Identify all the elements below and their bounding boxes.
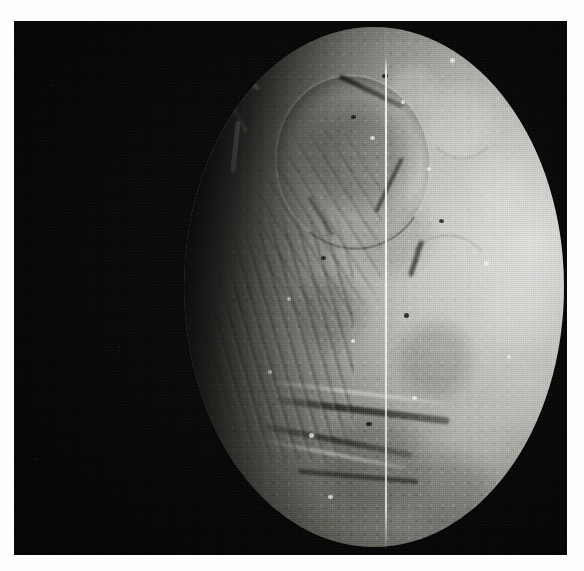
bright-crater-icon — [370, 136, 375, 140]
photographic-plate — [14, 21, 567, 555]
moon-disk — [184, 27, 564, 547]
raster-texture — [184, 27, 564, 547]
rift-valley-2-rim-icon — [268, 440, 406, 471]
bright-crater-icon — [287, 297, 291, 301]
limb-darkening — [184, 27, 564, 547]
grooved-terrain-north-icon — [252, 131, 382, 331]
bright-crater-icon — [412, 396, 417, 400]
bright-crater-icon — [507, 355, 511, 359]
crater-speckle — [184, 27, 564, 547]
bright-crater-icon — [351, 339, 355, 343]
rift-valley-2-icon — [265, 424, 413, 459]
surface-mottling — [184, 27, 564, 547]
terminator-shading — [184, 27, 564, 547]
rift-valley-3-icon — [298, 469, 418, 484]
crater-ring-d-icon — [458, 339, 528, 424]
dark-crater-icon — [382, 74, 388, 78]
bright-crater-icon — [484, 261, 489, 266]
dark-crater-icon — [404, 313, 409, 318]
crater-ring-b-icon — [397, 235, 498, 351]
dark-crater-icon — [366, 422, 372, 426]
image-frame: Grayscale spacecraft image of a heavily … — [0, 0, 584, 571]
rift-valley-1-icon — [275, 396, 450, 424]
bright-crater-icon — [450, 58, 455, 63]
bright-crater-icon — [427, 167, 431, 171]
limb-scarp-lower-icon — [213, 70, 249, 133]
crater-ring-c-icon — [423, 69, 501, 159]
bright-crater-icon — [309, 433, 314, 438]
bright-crater-icon — [401, 100, 405, 104]
degraded-crater-ring-icon — [264, 64, 443, 260]
rift-valley-1-rim-icon — [276, 381, 445, 406]
canyon-west-icon — [307, 196, 335, 237]
moon-disk-container — [184, 27, 564, 547]
canyon-east-icon — [408, 239, 424, 277]
bright-crater-icon — [328, 495, 333, 499]
bright-scarp-icon — [231, 120, 241, 172]
dark-crater-icon — [321, 256, 326, 260]
canyon-north-icon — [338, 74, 403, 109]
dark-crater-icon — [351, 115, 356, 119]
canyon-central-icon — [374, 157, 404, 213]
bright-crater-icon — [268, 370, 272, 374]
grooved-terrain-south-icon — [214, 214, 354, 464]
limb-scarp-upper-icon — [212, 51, 260, 90]
dark-crater-icon — [439, 219, 444, 223]
